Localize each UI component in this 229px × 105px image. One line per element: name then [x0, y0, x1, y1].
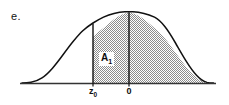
- shaded-area-label: A1: [99, 52, 114, 66]
- normal-distribution-chart: [0, 0, 229, 105]
- figure-item-label: e.: [11, 11, 21, 22]
- x-axis-tick-label-origin: 0: [118, 87, 140, 96]
- normal-curve-figure: e. A1 z0 0: [0, 0, 229, 105]
- x-axis-tick-label-z0: z0: [80, 87, 106, 98]
- shaded-area-label-subscript: 1: [108, 58, 112, 65]
- tick-label-z-subscript: 0: [93, 91, 97, 98]
